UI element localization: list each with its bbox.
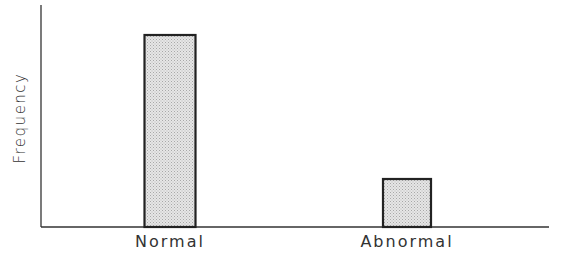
bar-normal	[145, 35, 196, 227]
bar-chart	[0, 0, 566, 272]
x-tick-abnormal: Abnormal	[360, 232, 453, 251]
x-tick-normal: Normal	[135, 232, 205, 251]
bar-abnormal	[383, 179, 431, 227]
